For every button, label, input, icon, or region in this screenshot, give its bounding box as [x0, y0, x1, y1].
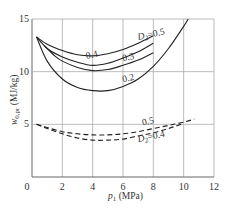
- chart: 02468101251015 D2=0.50.40.30.20.5D2=0.4 …: [0, 0, 228, 210]
- x-tick-label: 4: [90, 181, 95, 192]
- x-tick-label: 8: [151, 181, 156, 192]
- y-tick-label: 15: [19, 13, 29, 24]
- curve-labels: D2=0.50.40.30.20.5D2=0.4: [85, 26, 166, 146]
- tick-labels: 02468101251015: [19, 13, 219, 192]
- series-line: [44, 45, 153, 70]
- y-axis-label: w0,pr (MJ/kg): [9, 75, 21, 125]
- curve-label: 0.3: [121, 51, 135, 63]
- y-tick-label: 10: [19, 66, 29, 77]
- curve-label: D2=0.5: [136, 26, 167, 44]
- x-axis-label: p1 (MPa): [107, 191, 143, 203]
- series-group: [37, 19, 195, 140]
- curve-label: 0.4: [85, 49, 99, 61]
- curve-label: 0.5: [141, 115, 155, 127]
- x-tick-label: 10: [179, 181, 189, 192]
- grid: [32, 19, 214, 177]
- y-tick-label: 5: [24, 118, 29, 129]
- x-tick-label: 2: [60, 181, 65, 192]
- x-tick-label: 0: [25, 181, 30, 192]
- x-tick-label: 12: [209, 181, 219, 192]
